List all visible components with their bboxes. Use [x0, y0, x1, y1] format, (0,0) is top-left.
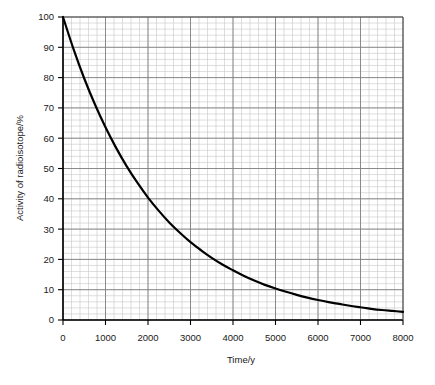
- x-tick-label: 5000: [265, 332, 286, 343]
- y-tick-label: 30: [43, 224, 54, 235]
- x-tick-label: 0: [60, 332, 65, 343]
- x-tick-label: 2000: [137, 332, 158, 343]
- y-tick-label: 20: [43, 254, 54, 265]
- y-tick-label: 60: [43, 133, 54, 144]
- x-tick-label: 1000: [95, 332, 116, 343]
- y-tick-label: 0: [49, 314, 54, 325]
- y-tick-label: 90: [43, 42, 54, 53]
- y-tick-label: 50: [43, 163, 54, 174]
- x-tick-label: 8000: [392, 332, 413, 343]
- y-tick-label: 80: [43, 72, 54, 83]
- y-tick-label: 10: [43, 284, 54, 295]
- y-axis-title: Activity of radioisotope/%: [14, 114, 25, 221]
- chart-figure: 010002000300040005000600070008000 010203…: [0, 0, 435, 385]
- x-tick-label: 4000: [222, 332, 243, 343]
- x-tick-label: 3000: [180, 332, 201, 343]
- x-axis-title: Time/y: [227, 354, 255, 365]
- x-axis-tick-labels: 010002000300040005000600070008000: [60, 332, 413, 343]
- y-tick-label: 40: [43, 193, 54, 204]
- radioactive-decay-chart: 010002000300040005000600070008000 010203…: [0, 0, 435, 385]
- x-tick-label: 7000: [350, 332, 371, 343]
- y-tick-label: 70: [43, 102, 54, 113]
- y-tick-label: 100: [38, 11, 54, 22]
- x-tick-label: 6000: [307, 332, 328, 343]
